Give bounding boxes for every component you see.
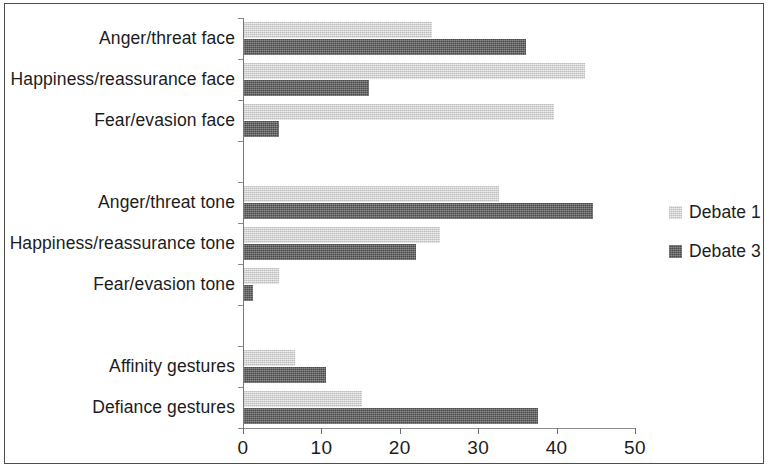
category-label: Affinity gestures [7,356,243,377]
x-axis-tick [400,428,401,434]
bar-chart-figure: Anger/threat faceHappiness/reassurance f… [0,0,769,469]
x-axis-tick [243,428,244,434]
bar-debate-1 [244,268,279,284]
legend-swatch-icon [669,206,682,219]
category-label: Fear/evasion face [7,110,243,131]
bar-debate-1 [244,63,585,79]
category-label: Anger/threat face [7,28,243,49]
y-axis-minor-tick [238,346,243,347]
category-label: Happiness/reassurance face [7,69,243,90]
category-axis-labels: Anger/threat faceHappiness/reassurance f… [0,0,243,469]
bar-debate-1 [244,186,499,202]
bar-debate-1 [244,22,432,38]
chart-legend: Debate 1Debate 3 [669,203,765,281]
bar-debate-3 [244,408,538,424]
category-label: Anger/threat tone [7,192,243,213]
y-axis-minor-tick [238,387,243,388]
legend-item: Debate 1 [669,203,765,221]
x-axis-tick-label: 30 [448,437,508,459]
legend-item: Debate 3 [669,242,765,260]
bar-debate-3 [244,121,279,137]
y-axis-minor-tick [238,223,243,224]
bar-debate-1 [244,350,295,366]
bar-debate-3 [244,203,593,219]
bar-debate-1 [244,391,362,407]
legend-swatch-icon [669,245,682,258]
x-axis-tick [635,428,636,434]
bar-debate-3 [244,244,416,260]
x-axis-tick-label: 20 [370,437,430,459]
y-axis-minor-tick [238,100,243,101]
legend-label: Debate 1 [689,202,761,223]
y-axis-minor-tick [238,182,243,183]
plot-area [243,18,635,428]
bar-debate-3 [244,39,526,55]
y-axis-minor-tick [238,264,243,265]
y-axis-minor-tick [238,305,243,306]
category-label: Fear/evasion tone [7,274,243,295]
x-axis-tick-label: 10 [291,437,351,459]
x-axis-tick [557,428,558,434]
bar-debate-1 [244,104,554,120]
category-label: Happiness/reassurance tone [7,233,243,254]
category-label: Defiance gestures [7,397,243,418]
legend-label: Debate 3 [689,241,761,262]
x-axis-tick-label: 0 [213,437,273,459]
x-axis-tick [478,428,479,434]
y-axis-minor-tick [238,59,243,60]
bar-debate-1 [244,227,440,243]
x-axis-tick [321,428,322,434]
bar-debate-3 [244,367,326,383]
x-axis-tick-label: 40 [527,437,587,459]
y-axis-minor-tick [238,141,243,142]
y-axis-minor-tick [238,428,243,429]
category-axis-line [243,428,636,429]
bar-debate-3 [244,80,369,96]
y-axis-minor-tick [238,18,243,19]
bar-debate-3 [244,285,253,301]
x-axis-tick-label: 50 [605,437,665,459]
